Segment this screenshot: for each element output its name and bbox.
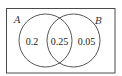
region-a-only-value: 0.2 [26, 36, 39, 47]
region-intersection-value: 0.25 [51, 36, 69, 47]
region-b-only-value: 0.05 [78, 36, 96, 47]
set-a-label: A [13, 14, 21, 25]
venn-diagram: A B 0.2 0.25 0.05 [0, 0, 122, 76]
set-b-label: B [94, 15, 102, 26]
